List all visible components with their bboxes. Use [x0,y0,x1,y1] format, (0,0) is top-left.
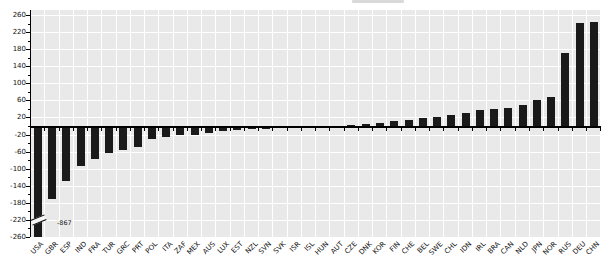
y-tick-label: 60 [0,96,26,105]
x-axis-tick [372,128,373,131]
gridline-vertical [244,10,245,237]
x-tick-label-DEU: DEU [571,240,587,256]
x-axis-tick [244,128,245,131]
x-axis-tick [116,128,117,131]
x-axis-tick [529,128,530,131]
y-tick-label: -180 [0,199,26,208]
y-axis-tick [28,211,31,212]
bar-GRC [119,127,127,151]
x-tick-label-NLD: NLD [514,240,530,256]
gridline-vertical [158,10,159,237]
x-tick-label-LUX: LUX [216,240,231,255]
gridline-vertical [543,10,544,237]
x-tick-label-EST: EST [230,240,245,255]
x-axis-tick [500,128,501,131]
x-tick-label-GBR: GBR [43,240,59,256]
x-axis-tick [130,128,131,131]
gridline-vertical [500,10,501,237]
x-axis-tick [101,128,102,131]
bar-IND [77,127,85,166]
x-tick-label-CHN: CHN [585,240,602,257]
x-tick-label-AUS: AUS [201,240,217,256]
bar-ITA [162,127,170,138]
x-tick-label-ZAF: ZAF [173,240,188,255]
y-axis-tick [28,58,31,59]
x-tick-label-SVK: SVK [272,240,287,255]
y-axis-spine [30,10,31,237]
x-tick-label-ESP: ESP [59,240,74,255]
gridline-vertical [486,10,487,237]
y-axis-tick [28,109,31,110]
x-axis-tick [73,128,74,131]
y-axis-tick [26,32,30,33]
x-tick-label-TUR: TUR [101,240,117,256]
x-axis-tick [173,128,174,131]
x-tick-label-ITA: ITA [161,240,174,253]
chart-plot-area [30,10,601,237]
y-axis-tick [26,117,30,118]
bar-RUS [561,53,569,126]
gridline-vertical [258,10,259,237]
x-tick-label-IDN: IDN [459,240,474,255]
y-axis-tick [28,160,31,161]
gridline-vertical [173,10,174,237]
gridline-vertical [515,10,516,237]
x-axis-tick [59,128,60,131]
gridline-vertical [272,10,273,237]
x-axis-tick [158,128,159,131]
x-axis-tick [572,128,573,131]
gridline-vertical [101,10,102,237]
x-axis-tick [515,128,516,131]
x-axis-tick [429,128,430,131]
x-tick-label-CHL: CHL [443,240,459,256]
y-tick-label: -260 [0,233,26,242]
y-tick-label: -60 [0,148,26,157]
x-axis-tick [344,128,345,131]
x-axis-tick [586,128,587,131]
x-tick-label-AUT: AUT [329,240,345,256]
x-tick-label-IND: IND [74,240,89,255]
bar-NOR [547,97,555,126]
y-axis-tick [26,135,30,136]
x-tick-label-GRC: GRC [115,240,131,256]
bar-FRA [91,127,99,159]
x-axis-tick [258,128,259,131]
gridline-vertical [287,10,288,237]
x-tick-label-FIN: FIN [388,240,402,254]
bar-IDN [462,113,470,127]
gridline-vertical [415,10,416,237]
x-axis-tick [215,128,216,131]
gridline-vertical [44,10,45,237]
bar-chart-figure: 2602201801401006020-20-60-100-140-180-22… [0,0,605,267]
x-axis-zero-line [30,126,601,128]
x-tick-label-HUN: HUN [314,240,331,257]
bar-NLD [519,105,527,126]
bar-IRL [476,110,484,126]
clipped-chart-title [352,0,404,3]
x-tick-label-SWE: SWE [428,240,445,257]
y-axis-tick [26,49,30,50]
x-axis-tick [187,128,188,131]
bar-CAN [504,108,512,127]
gridline-vertical [572,10,573,237]
gridline-vertical [386,10,387,237]
x-axis-tick [230,128,231,131]
y-tick-label: 180 [0,45,26,54]
bar-JPN [533,100,541,126]
y-axis-tick [26,169,30,170]
gridline-vertical [600,10,601,237]
gridline-vertical [215,10,216,237]
gridline-vertical [458,10,459,237]
y-axis-tick [26,100,30,101]
bar-CHN [590,22,598,126]
x-axis-tick [272,128,273,131]
x-axis-tick [358,128,359,131]
y-tick-label: -220 [0,216,26,225]
x-axis-tick [144,128,145,131]
y-tick-label: -100 [0,165,26,174]
gridline-vertical [301,10,302,237]
bar-TUR [105,127,113,153]
gridline-vertical [372,10,373,237]
gridline-vertical [116,10,117,237]
gridline-vertical [472,10,473,237]
